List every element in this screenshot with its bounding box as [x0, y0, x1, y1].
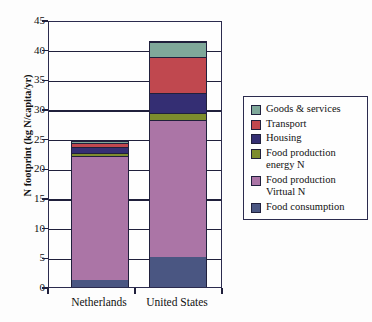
legend: Goods & servicesTransportHousingFood pro… — [243, 96, 368, 220]
chart-figure: N footprint (kg N/capita/yr) 05101520253… — [0, 0, 372, 322]
legend-label: Food consumption — [266, 201, 344, 214]
legend-swatch-icon — [251, 105, 261, 115]
y-axis-tick-label: 35 — [5, 74, 45, 85]
legend-item[interactable]: Food consumption — [251, 201, 362, 214]
legend-swatch-icon — [251, 120, 261, 130]
legend-label: Goods & services — [266, 103, 341, 116]
legend-item[interactable]: Transport — [251, 118, 362, 131]
y-axis-tick-label: 40 — [5, 45, 45, 56]
legend-label: Food productionVirtual N — [266, 174, 336, 199]
y-axis-tick-label: 20 — [5, 163, 45, 174]
legend-swatch-icon — [251, 134, 261, 144]
bar-netherlands — [71, 140, 129, 287]
legend-label-line1: Food production — [266, 147, 336, 160]
legend-item[interactable]: Goods & services — [251, 103, 362, 116]
bar-segment — [72, 156, 128, 280]
legend-swatch-icon — [251, 149, 261, 159]
bar-united-states — [149, 41, 207, 287]
legend-label-line2: Virtual N — [266, 186, 336, 199]
y-axis-tick-label: 0 — [5, 282, 45, 293]
x-axis-tick — [47, 288, 49, 294]
legend-item[interactable]: Housing — [251, 132, 362, 145]
legend-item[interactable]: Food productionVirtual N — [251, 174, 362, 199]
plot-area — [48, 21, 222, 288]
y-axis-tick-label: 10 — [5, 223, 45, 234]
y-axis-tick-label: 45 — [5, 15, 45, 26]
bar-segment — [150, 93, 206, 113]
bar-segment — [150, 257, 206, 287]
y-axis-tick-label: 15 — [5, 193, 45, 204]
x-axis-tick — [221, 288, 223, 294]
y-axis-tick-label: 5 — [5, 252, 45, 263]
legend-label: Transport — [266, 118, 306, 131]
x-axis-label-united-states: United States — [122, 296, 232, 308]
bar-segment — [150, 113, 206, 120]
y-axis-tick-label: 30 — [5, 104, 45, 115]
legend-label-line2: energy N — [266, 159, 336, 172]
bar-segment — [72, 280, 128, 287]
bar-segment — [150, 57, 206, 93]
legend-label-line1: Food production — [266, 174, 336, 187]
x-axis-tick — [134, 288, 136, 294]
bar-segment — [150, 42, 206, 57]
legend-item[interactable]: Food productionenergy N — [251, 147, 362, 172]
y-axis-tick-label: 25 — [5, 134, 45, 145]
legend-swatch-icon — [251, 203, 261, 213]
bar-segment — [150, 120, 206, 258]
legend-swatch-icon — [251, 176, 261, 186]
legend-label: Food productionenergy N — [266, 147, 336, 172]
legend-label: Housing — [266, 132, 302, 145]
